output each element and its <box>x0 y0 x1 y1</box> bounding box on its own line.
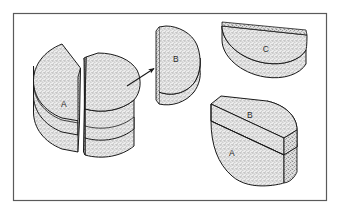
dissection-diagram: A B C <box>0 0 345 214</box>
label-a-split-cylinder: A <box>61 99 67 109</box>
label-a-stack: A <box>229 148 235 158</box>
label-b-upright: B <box>173 54 179 64</box>
label-b-stack: B <box>247 110 253 120</box>
split-cylinder-right-half <box>84 53 141 157</box>
split-cylinder-left-half <box>34 44 81 152</box>
label-c-flat: C <box>263 44 269 54</box>
half-disk-b-upright: B <box>156 26 200 105</box>
stacked-half-cylinder-ab: B A <box>211 96 297 186</box>
split-cylinder-assembly: A <box>34 44 141 157</box>
half-disk-c-flat: C <box>222 22 307 78</box>
half-disk-b-back-edge <box>156 27 159 104</box>
figure-container: A B C <box>0 0 345 214</box>
